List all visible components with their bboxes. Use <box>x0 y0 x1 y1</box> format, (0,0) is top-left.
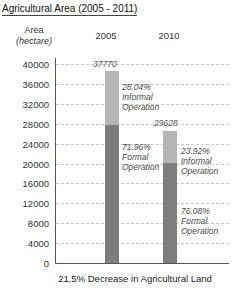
gridline-40000 <box>56 64 229 65</box>
category-label-2010: 2010 <box>151 30 187 41</box>
annotation-2010-formal: 76.08% Formal Operation <box>181 206 218 236</box>
bar-value-2005: 37770 <box>93 59 117 69</box>
chart: Agricultural Area (2005 - 2011) Area (he… <box>0 0 239 293</box>
bar-2010 <box>163 131 177 263</box>
y-tick-label-32000: 32000 <box>0 99 49 110</box>
bar-2005-informal-segment <box>105 71 119 125</box>
gridline-28000 <box>56 124 229 125</box>
y-axis-label: Area (hectare) <box>8 25 60 47</box>
y-tick-label-0: 0 <box>0 258 49 269</box>
bar-2005-formal-segment <box>105 125 119 263</box>
bar-2010-informal-segment <box>163 131 177 163</box>
y-tick-label-28000: 28000 <box>0 119 49 130</box>
chart-title: Agricultural Area (2005 - 2011) <box>2 3 137 16</box>
gridline-4000 <box>56 243 229 244</box>
y-tick-label-4000: 4000 <box>0 238 49 249</box>
y-tick-label-12000: 12000 <box>0 198 49 209</box>
category-label-2005: 2005 <box>88 30 124 41</box>
bar-value-2010: 29628 <box>154 118 178 128</box>
y-tick-label-20000: 20000 <box>0 159 49 170</box>
annotation-2005-formal: 71.96% Formal Operation <box>122 142 159 172</box>
y-tick-label-36000: 36000 <box>0 79 49 90</box>
y-tick-label-24000: 24000 <box>0 139 49 150</box>
bar-2010-formal-segment <box>163 163 177 263</box>
gridline-12000 <box>56 203 229 204</box>
y-axis-label-name: Area <box>8 25 60 36</box>
y-tick-label-16000: 16000 <box>0 178 49 189</box>
annotation-2005-informal: 28.04% Informal Operation <box>122 82 159 112</box>
x-axis-baseline <box>55 263 229 264</box>
y-tick-label-8000: 8000 <box>0 218 49 229</box>
annotation-2010-informal: 23.92% Informal Operation <box>181 146 218 176</box>
y-tick-label-40000: 40000 <box>0 59 49 70</box>
gridline-16000 <box>56 183 229 184</box>
chart-caption: 21.5% Decrease in Agricultural Land <box>40 273 230 284</box>
bar-2005 <box>105 71 119 263</box>
y-axis-line <box>55 58 56 264</box>
y-axis-label-unit: (hectare) <box>8 36 60 47</box>
